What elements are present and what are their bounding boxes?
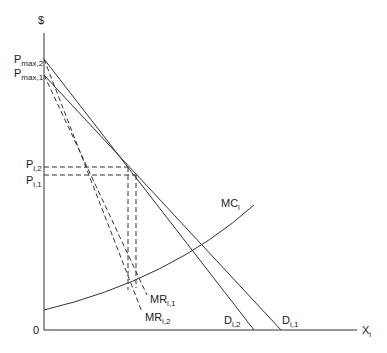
mc-label: MCi xyxy=(221,197,240,212)
origin-label: 0 xyxy=(33,324,39,336)
marginal-cost-curve xyxy=(44,205,254,310)
marginal-revenue-curve-1 xyxy=(44,75,147,295)
d1-label: Di,1 xyxy=(282,314,299,329)
y-axis-label: $ xyxy=(38,14,44,26)
diagram-canvas: $ 0 Pmax,2 Pmax,1 Pi,2 Pi,1 MCi MRi,1 MR… xyxy=(0,0,387,353)
demand-curve-2 xyxy=(44,59,254,330)
pi2-label: Pi,2 xyxy=(26,158,42,173)
marginal-revenue-curve-2 xyxy=(44,59,142,312)
pmax1-label: Pmax,1 xyxy=(14,67,44,82)
mr1-label: MRi,1 xyxy=(150,293,176,308)
mr2-label: MRi,2 xyxy=(145,311,171,326)
x-axis-label: Xi xyxy=(362,324,371,339)
demand-curve-1 xyxy=(44,75,281,330)
d2-label: Di,2 xyxy=(224,314,241,329)
pmax2-label: Pmax,2 xyxy=(14,53,44,68)
pi1-label: Pi,1 xyxy=(26,174,42,189)
